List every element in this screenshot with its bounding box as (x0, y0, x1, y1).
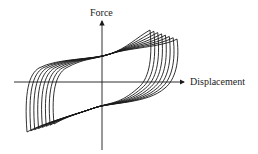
y-axis-label: Force (90, 7, 113, 18)
x-axis-label: Displacement (190, 76, 245, 87)
hysteresis-diagram: Force Displacement (0, 0, 258, 154)
